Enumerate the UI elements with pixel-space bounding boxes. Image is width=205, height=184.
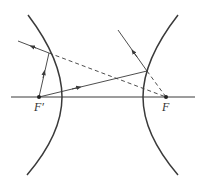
right-focus-point: [164, 95, 168, 99]
left-focus-point: [37, 95, 41, 99]
right-focus-label: F: [162, 101, 169, 113]
reflected-ray-right-arrow: [133, 52, 137, 58]
reflected-ray-right: [118, 30, 147, 71]
ray-fprime-to-right-branch-arrow: [72, 87, 79, 89]
left-hyperbola-branch: [27, 15, 62, 175]
ray-fprime-to-left-branch-arrow: [43, 73, 44, 79]
left-focus-label: F′: [34, 101, 44, 113]
hyperbola-diagram: [0, 0, 205, 184]
